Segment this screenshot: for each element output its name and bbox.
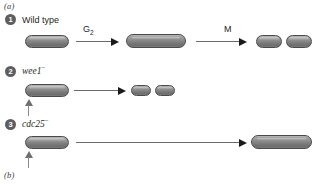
arrow-shaft	[28, 105, 29, 116]
cell-row2-daughter-left	[131, 85, 151, 96]
cell-row1-grown	[126, 34, 186, 48]
cell-row1-daughter-left	[256, 35, 282, 48]
arrow-caption-g2-sub: 2	[90, 29, 94, 36]
arrow-shaft	[28, 157, 29, 168]
row-number-badge-3: 3	[5, 119, 16, 130]
arrow-head	[111, 38, 119, 46]
row-label-sup-3: −	[45, 117, 49, 125]
transition-arrow-row3	[76, 138, 248, 147]
cell-row1-mother	[25, 35, 69, 48]
arrow-caption-m: M	[224, 24, 232, 36]
row-number-badge-2: 2	[5, 66, 16, 77]
cell-row2-mother	[25, 84, 69, 97]
row-label-wee1: wee1−	[22, 64, 45, 76]
row-label-text-2: wee1	[22, 66, 42, 76]
pointer-arrow-row3	[24, 151, 33, 168]
cell-cycle-figure: (a) (b) 1 Wild type G2 M 2 wee1−	[0, 0, 315, 184]
arrow-head	[239, 38, 247, 46]
transition-arrow-row2	[74, 86, 126, 95]
row-number-badge-1: 1	[5, 14, 16, 25]
arrow-caption-g2-text: G	[83, 24, 90, 34]
cell-row3-mother	[25, 136, 69, 149]
arrow-caption-m-text: M	[224, 24, 232, 34]
arrow-shaft	[196, 41, 240, 42]
cell-row2-daughter-right	[155, 85, 175, 96]
arrow-shaft	[76, 142, 240, 143]
panel-label-a: (a)	[4, 1, 15, 11]
row-label-text-3: cdc25	[22, 119, 45, 129]
cell-row1-daughter-right	[286, 35, 312, 48]
row-label-cdc25: cdc25−	[22, 117, 49, 129]
arrow-caption-g2: G2	[83, 24, 94, 36]
pointer-arrow-row2	[24, 99, 33, 116]
arrow-shaft	[74, 90, 119, 91]
arrow-shaft	[76, 41, 112, 42]
transition-arrow-row1-m	[196, 37, 248, 46]
arrow-head	[239, 139, 247, 147]
panel-label-b: (b)	[4, 170, 15, 180]
row-label-text-1: Wild type	[22, 15, 59, 25]
transition-arrow-row1-g2	[76, 37, 120, 46]
row-label-sup-2: −	[42, 64, 46, 72]
cell-row3-elongated	[251, 135, 312, 149]
arrow-head	[118, 87, 126, 95]
row-label-wild-type: Wild type	[22, 13, 59, 25]
